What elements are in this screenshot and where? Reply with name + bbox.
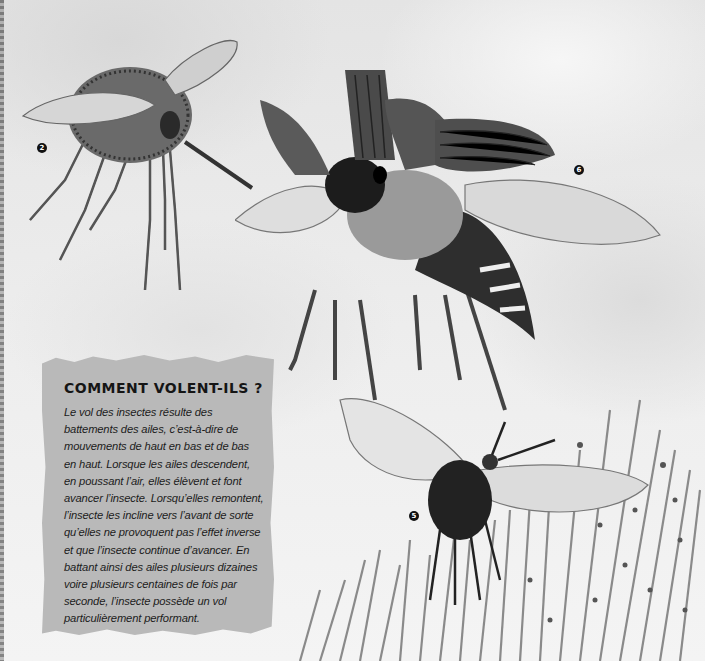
insect-6-illustration <box>235 70 665 420</box>
info-box-title: COMMENT VOLENT-ILS ? <box>64 380 263 396</box>
insect-5-illustration <box>280 390 705 661</box>
insect-2-illustration <box>15 30 265 300</box>
page-binding-edge <box>0 0 4 661</box>
marker-6: 6 <box>574 165 584 175</box>
marker-5: 5 <box>409 511 419 521</box>
info-box-body: Le vol des insectes résulte des battemen… <box>64 404 264 628</box>
marker-2: 2 <box>37 143 47 153</box>
info-box: COMMENT VOLENT-ILS ? Le vol des insectes… <box>42 355 274 635</box>
book-page: 2 6 5 COMMENT VOLENT-ILS ? Le vol des in… <box>0 0 705 661</box>
